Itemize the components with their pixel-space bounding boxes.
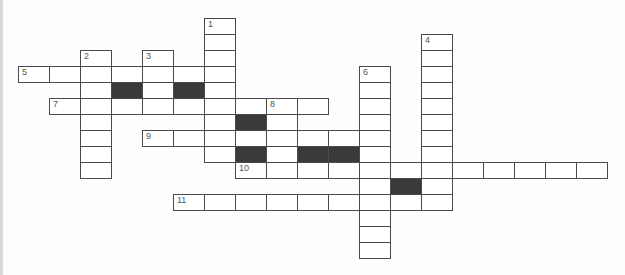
crossword-cell[interactable] [80,82,112,99]
crossword-cell[interactable] [359,130,391,147]
crossword-cell[interactable] [235,194,267,211]
crossword-cell[interactable]: 5 [18,66,50,83]
crossword-cell[interactable] [80,114,112,131]
crossword-cell[interactable] [297,98,329,115]
crossword-cell[interactable] [235,98,267,115]
crossword-cell[interactable]: 2 [80,50,112,67]
crossword-block-cell [235,146,267,163]
crossword-cell[interactable]: 8 [266,98,298,115]
crossword-cell[interactable] [142,66,174,83]
crossword-cell[interactable] [173,98,205,115]
crossword-cell[interactable] [421,194,453,211]
crossword-cell[interactable] [204,98,236,115]
clue-number: 5 [22,67,27,78]
crossword-cell[interactable] [266,114,298,131]
crossword-cell[interactable] [328,194,360,211]
crossword-cell[interactable] [204,34,236,51]
crossword-cell[interactable] [173,130,205,147]
crossword-cell[interactable] [390,162,422,179]
crossword-cell[interactable] [80,66,112,83]
crossword-cell[interactable] [545,162,577,179]
crossword-cell[interactable] [204,50,236,67]
crossword-cell[interactable] [359,82,391,99]
crossword-cell[interactable] [80,98,112,115]
crossword-cell[interactable] [421,98,453,115]
crossword-cell[interactable] [359,98,391,115]
crossword-cell[interactable] [173,66,205,83]
clue-number: 2 [84,51,89,62]
crossword-cell[interactable] [204,82,236,99]
crossword-cell[interactable] [421,66,453,83]
crossword-cell[interactable]: 11 [173,194,205,211]
crossword-cell[interactable] [359,242,391,259]
crossword-cell[interactable] [576,162,608,179]
crossword-block-cell [235,114,267,131]
crossword-cell[interactable]: 4 [421,34,453,51]
crossword-cell[interactable]: 7 [49,98,81,115]
crossword-cell[interactable] [297,162,329,179]
crossword-cell[interactable] [359,178,391,195]
crossword-cell[interactable] [421,50,453,67]
clue-number: 8 [270,99,275,110]
clue-number: 3 [146,51,151,62]
crossword-block-cell [328,146,360,163]
crossword-cell[interactable]: 10 [235,162,267,179]
crossword-cell[interactable] [266,194,298,211]
crossword-cell[interactable] [266,162,298,179]
crossword-cell[interactable] [359,226,391,243]
clue-number: 7 [53,99,58,110]
clue-number: 4 [425,35,430,46]
clue-number: 10 [239,163,249,174]
crossword-cell[interactable] [80,130,112,147]
crossword-block-cell [173,82,205,99]
crossword-cell[interactable] [204,114,236,131]
crossword-cell[interactable]: 6 [359,66,391,83]
crossword-grid: 1423567891011 [0,0,625,275]
crossword-cell[interactable] [421,146,453,163]
crossword-cell[interactable] [359,146,391,163]
crossword-cell[interactable] [359,210,391,227]
crossword-cell[interactable] [204,66,236,83]
crossword-cell[interactable] [297,194,329,211]
crossword-cell[interactable]: 9 [142,130,174,147]
crossword-cell[interactable] [49,66,81,83]
crossword-cell[interactable]: 1 [204,18,236,35]
crossword-cell[interactable] [514,162,546,179]
crossword-cell[interactable] [235,130,267,147]
clue-number: 1 [208,19,213,30]
crossword-cell[interactable] [204,130,236,147]
crossword-cell[interactable] [421,130,453,147]
crossword-cell[interactable] [204,194,236,211]
clue-number: 9 [146,131,151,142]
crossword-cell[interactable] [111,66,143,83]
crossword-block-cell [390,178,422,195]
crossword-block-cell [297,146,329,163]
crossword-cell[interactable] [297,130,329,147]
crossword-cell[interactable] [390,194,422,211]
crossword-cell[interactable] [266,130,298,147]
crossword-cell[interactable] [452,162,484,179]
crossword-cell[interactable] [328,130,360,147]
crossword-cell[interactable] [111,98,143,115]
crossword-cell[interactable] [204,146,236,163]
crossword-cell[interactable] [142,82,174,99]
crossword-cell[interactable]: 3 [142,50,174,67]
crossword-cell[interactable] [142,98,174,115]
crossword-cell[interactable] [421,114,453,131]
crossword-cell[interactable] [483,162,515,179]
crossword-cell[interactable] [328,162,360,179]
crossword-cell[interactable] [359,194,391,211]
crossword-block-cell [111,82,143,99]
crossword-cell[interactable] [266,146,298,163]
clue-number: 11 [177,195,186,206]
crossword-cell[interactable] [421,162,453,179]
crossword-cell[interactable] [421,82,453,99]
crossword-cell[interactable] [80,162,112,179]
crossword-cell[interactable] [80,146,112,163]
clue-number: 6 [363,67,368,78]
crossword-cell[interactable] [421,178,453,195]
crossword-cell[interactable] [359,114,391,131]
crossword-cell[interactable] [359,162,391,179]
